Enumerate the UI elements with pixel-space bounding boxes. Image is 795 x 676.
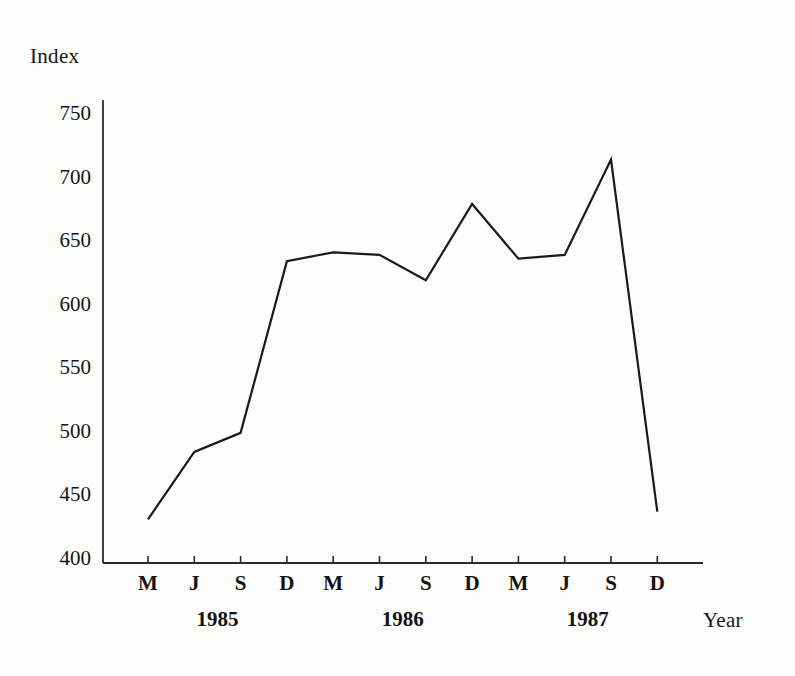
x-axis-month-label: S [221, 571, 261, 596]
y-axis-tick-label: 600 [35, 292, 91, 317]
x-axis-month-label: S [406, 571, 446, 596]
x-axis-year-label: 1987 [543, 607, 633, 632]
x-axis-month-label: D [452, 571, 492, 596]
chart-page: Index Year 400450500550600650700750 MJSD… [0, 0, 795, 676]
x-axis-month-label: S [591, 571, 631, 596]
x-axis-month-label: D [267, 571, 307, 596]
x-axis-month-label: M [313, 571, 353, 596]
y-axis-title: Index [30, 44, 79, 69]
x-axis-month-label: J [545, 571, 585, 596]
y-axis-tick-label: 450 [35, 482, 91, 507]
x-axis-month-label: J [360, 571, 400, 596]
x-axis-year-label: 1986 [358, 607, 448, 632]
x-axis-month-label: J [174, 571, 214, 596]
y-axis-tick-label: 700 [35, 165, 91, 190]
y-axis-tick-label: 500 [35, 419, 91, 444]
y-axis-tick-label: 650 [35, 228, 91, 253]
y-axis-tick-label: 550 [35, 355, 91, 380]
x-axis-title: Year [703, 608, 743, 633]
x-axis-month-label: M [128, 571, 168, 596]
x-axis-year-label: 1985 [172, 607, 262, 632]
x-axis-tickmarks [148, 556, 657, 563]
y-axis-tick-label: 750 [35, 101, 91, 126]
x-axis-month-label: M [498, 571, 538, 596]
index-series-line [148, 160, 657, 520]
y-axis-tick-label: 400 [35, 546, 91, 571]
x-axis-month-label: D [637, 571, 677, 596]
